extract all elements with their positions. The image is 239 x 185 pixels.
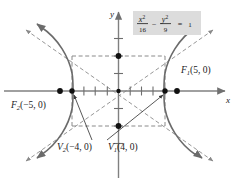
point-co-vertex-bottom xyxy=(116,123,122,129)
hyperbola-figure: x2 16 − y2 9 = 1 y x F1(5, 0) F2(−5, 0) … xyxy=(0,0,239,185)
equation-denominator-y: 9 xyxy=(164,26,168,34)
label-vertex-left: V2(−4, 0) xyxy=(57,142,92,153)
point-vertex-right xyxy=(162,88,167,93)
equation-minus-sign: − xyxy=(151,20,156,29)
point-focus-left xyxy=(57,88,63,94)
label-vertex-left-coords: (−4, 0) xyxy=(66,142,92,153)
point-co-vertex-top xyxy=(116,53,122,59)
x-axis-label: x xyxy=(225,95,230,105)
point-origin xyxy=(116,89,120,93)
equation-numerator-x-exponent: 2 xyxy=(142,14,145,20)
label-vertex-right: V1(4, 0) xyxy=(108,142,138,153)
equation-right-hand-side: 1 xyxy=(188,21,192,29)
equation-denominator-x: 16 xyxy=(139,26,147,34)
label-vertex-right-coords: (4, 0) xyxy=(117,142,138,153)
point-focus-right xyxy=(174,88,180,94)
y-axis-label: y xyxy=(109,9,114,19)
label-focus-right-coords: (5, 0) xyxy=(190,65,211,76)
label-focus-right: F1(5, 0) xyxy=(180,65,211,76)
equation-equals-sign: = xyxy=(177,20,182,29)
label-focus-left: F2(−5, 0) xyxy=(10,100,46,111)
point-vertex-left xyxy=(69,88,74,93)
equation-box: x2 16 − y2 9 = 1 xyxy=(133,11,201,35)
equation-numerator-y-exponent: 2 xyxy=(165,14,168,20)
label-focus-left-coords: (−5, 0) xyxy=(20,100,46,111)
